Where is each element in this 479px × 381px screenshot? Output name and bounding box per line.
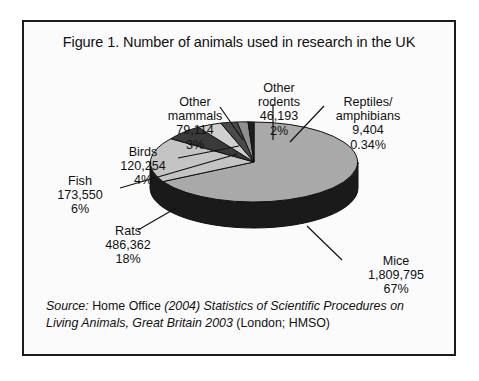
callout-other-rodents-name: Other [242, 81, 316, 95]
callout-other-rodents-name2: rodents [242, 95, 316, 109]
source-publisher-name: Home Office [92, 299, 161, 313]
callout-reptiles-name2: amphibians [320, 109, 416, 123]
callout-rats-name: Rats [86, 224, 170, 238]
pie-chart: Other mammals 79,114 3% Other rodents 46… [24, 58, 454, 290]
callout-rats: Rats 486,362 18% [86, 224, 170, 267]
callout-mice-name: Mice [342, 254, 450, 268]
callout-reptiles-amphibians: Reptiles/ amphibians 9,404 0.34% [320, 95, 416, 152]
leader-line-mice [307, 226, 342, 260]
callout-mice-value: 1,809,795 [342, 268, 450, 282]
callout-other-mammals: Other mammals 79,114 3% [152, 95, 238, 152]
callout-other-mammals-value: 79,114 [152, 123, 238, 137]
callout-rats-value: 486,362 [86, 238, 170, 252]
callout-other-rodents-value: 46,193 [242, 109, 316, 123]
callout-birds-value: 120,254 [100, 159, 186, 173]
callout-fish-value: 173,550 [34, 188, 126, 202]
callout-fish: Fish 173,550 6% [34, 174, 126, 217]
callout-birds-name: Birds [100, 145, 186, 159]
figure-frame: Figure 1. Number of animals used in rese… [22, 20, 456, 356]
callout-fish-percent: 6% [34, 202, 126, 216]
source-imprint: (London; HMSO) [236, 316, 330, 330]
callout-other-mammals-name: Other [152, 95, 238, 109]
callout-mice: Mice 1,809,795 67% [342, 254, 450, 297]
callout-reptiles-name: Reptiles/ [320, 95, 416, 109]
callout-rats-percent: 18% [86, 252, 170, 266]
source-note: Source: Home Office (2004) Statistics of… [46, 298, 434, 331]
callout-other-rodents: Other rodents 46,193 2% [242, 81, 316, 138]
callout-other-mammals-name2: mammals [152, 109, 238, 123]
callout-mice-percent: 67% [342, 282, 450, 296]
source-label: Source: [46, 299, 89, 313]
callout-reptiles-percent: 0.34% [320, 138, 416, 152]
callout-other-rodents-percent: 2% [242, 124, 316, 138]
callout-fish-name: Fish [34, 174, 126, 188]
callout-reptiles-value: 9,404 [320, 123, 416, 137]
figure-title: Figure 1. Number of animals used in rese… [24, 34, 454, 50]
